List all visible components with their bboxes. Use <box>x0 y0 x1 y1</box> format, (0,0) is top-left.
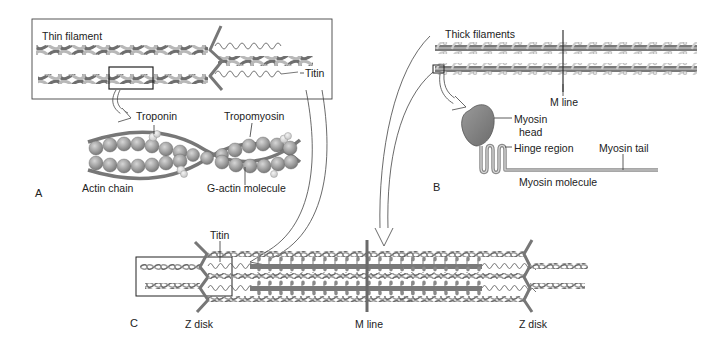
label-titin-a: Titin <box>305 67 324 79</box>
label-m-line-b: M line <box>550 96 578 108</box>
label-hinge-region: Hinge region <box>514 142 574 154</box>
panel-letter-a: A <box>35 187 42 199</box>
panel-letter-b: B <box>433 181 440 193</box>
label-actin-chain: Actin chain <box>82 182 133 194</box>
label-myosin-molecule: Myosin molecule <box>519 176 597 188</box>
label-m-line-c: M line <box>355 318 383 330</box>
panel-letter-c: C <box>130 317 138 329</box>
label-myosin-tail: Myosin tail <box>599 142 649 154</box>
figure-graphics <box>0 0 723 352</box>
panel-c-graphics <box>136 240 588 312</box>
label-z-disk-left: Z disk <box>185 318 213 330</box>
label-myosin-head-line2: head <box>519 126 542 138</box>
sarcomere-figure: Thin filament Titin Troponin Tropomyosin… <box>0 0 723 352</box>
panel-a-graphics <box>32 19 332 185</box>
label-thin-filament: Thin filament <box>42 30 102 42</box>
label-g-actin-molecule: G-actin molecule <box>207 182 286 194</box>
label-troponin: Troponin <box>136 110 177 122</box>
actin-helix <box>88 131 300 179</box>
label-thick-filaments: Thick filaments <box>445 28 515 40</box>
label-tropomyosin: Tropomyosin <box>224 110 284 122</box>
label-titin-c: Titin <box>210 229 229 241</box>
label-z-disk-right: Z disk <box>519 318 547 330</box>
label-myosin-head-line1: Myosin <box>514 113 547 125</box>
